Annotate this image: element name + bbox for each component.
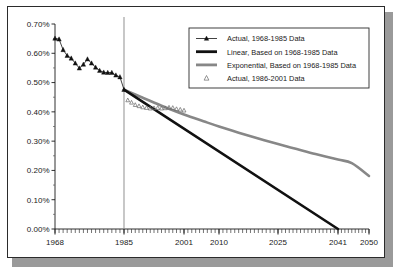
y-tick-label: 0.20%	[27, 166, 50, 175]
chart-legend: Actual, 1968-1985 DataLinear, Based on 1…	[189, 28, 369, 88]
data-point-filled-triangle	[61, 47, 65, 51]
chart-plot-area: 0.70%0.60%0.50%0.40%0.30%0.20%0.10%0.00%…	[8, 7, 384, 257]
series-exponential	[124, 90, 369, 176]
x-tick-label: 1968	[46, 238, 64, 247]
x-tick-label: 2050	[360, 238, 378, 247]
data-point-hollow-triangle	[141, 105, 145, 109]
data-point-hollow-triangle	[126, 98, 130, 102]
legend-label: Exponential, Based on 1968-1985 Data	[227, 61, 357, 70]
data-point-filled-triangle	[53, 36, 57, 40]
data-point-hollow-triangle	[130, 100, 134, 104]
data-point-hollow-triangle	[175, 107, 179, 111]
chart-frame: 0.70%0.60%0.50%0.40%0.30%0.20%0.10%0.00%…	[7, 6, 385, 258]
y-tick-label: 0.60%	[27, 49, 50, 58]
data-point-filled-triangle	[114, 73, 118, 77]
x-tick-label: 2041	[329, 238, 347, 247]
series-linear	[124, 90, 338, 229]
x-tick-label: 1985	[115, 238, 133, 247]
y-tick-label: 0.70%	[27, 20, 50, 29]
data-point-hollow-triangle	[133, 103, 137, 107]
data-point-hollow-triangle	[156, 106, 160, 110]
series-actual-1986-2001	[126, 98, 186, 112]
x-tick-label: 2010	[210, 238, 228, 247]
y-tick-label: 0.50%	[27, 78, 50, 87]
data-point-hollow-triangle	[182, 108, 186, 112]
legend-label: Actual, 1968-1985 Data	[227, 34, 306, 43]
data-point-hollow-triangle	[178, 107, 182, 111]
series-actual-1968-1985-line	[55, 38, 124, 89]
y-tick-label: 0.40%	[27, 108, 50, 117]
y-tick-label: 0.00%	[27, 225, 50, 234]
series-actual-1968-1985-markers	[53, 36, 126, 92]
chart-canvas: 0.70%0.60%0.50%0.40%0.30%0.20%0.10%0.00%…	[8, 7, 384, 257]
y-tick-label: 0.30%	[27, 137, 50, 146]
data-point-filled-triangle	[97, 68, 101, 72]
data-point-filled-triangle	[69, 56, 73, 60]
legend-label: Actual, 1986-2001 Data	[227, 74, 306, 83]
screenshot-root: 0.70%0.60%0.50%0.40%0.30%0.20%0.10%0.00%…	[0, 0, 401, 275]
y-tick-label: 0.10%	[27, 196, 50, 205]
data-point-filled-triangle	[85, 57, 89, 61]
x-tick-label: 2001	[175, 238, 193, 247]
data-point-hollow-triangle	[137, 104, 141, 108]
x-tick-label: 2025	[269, 238, 287, 247]
legend-label: Linear, Based on 1968-1985 Data	[227, 48, 338, 57]
